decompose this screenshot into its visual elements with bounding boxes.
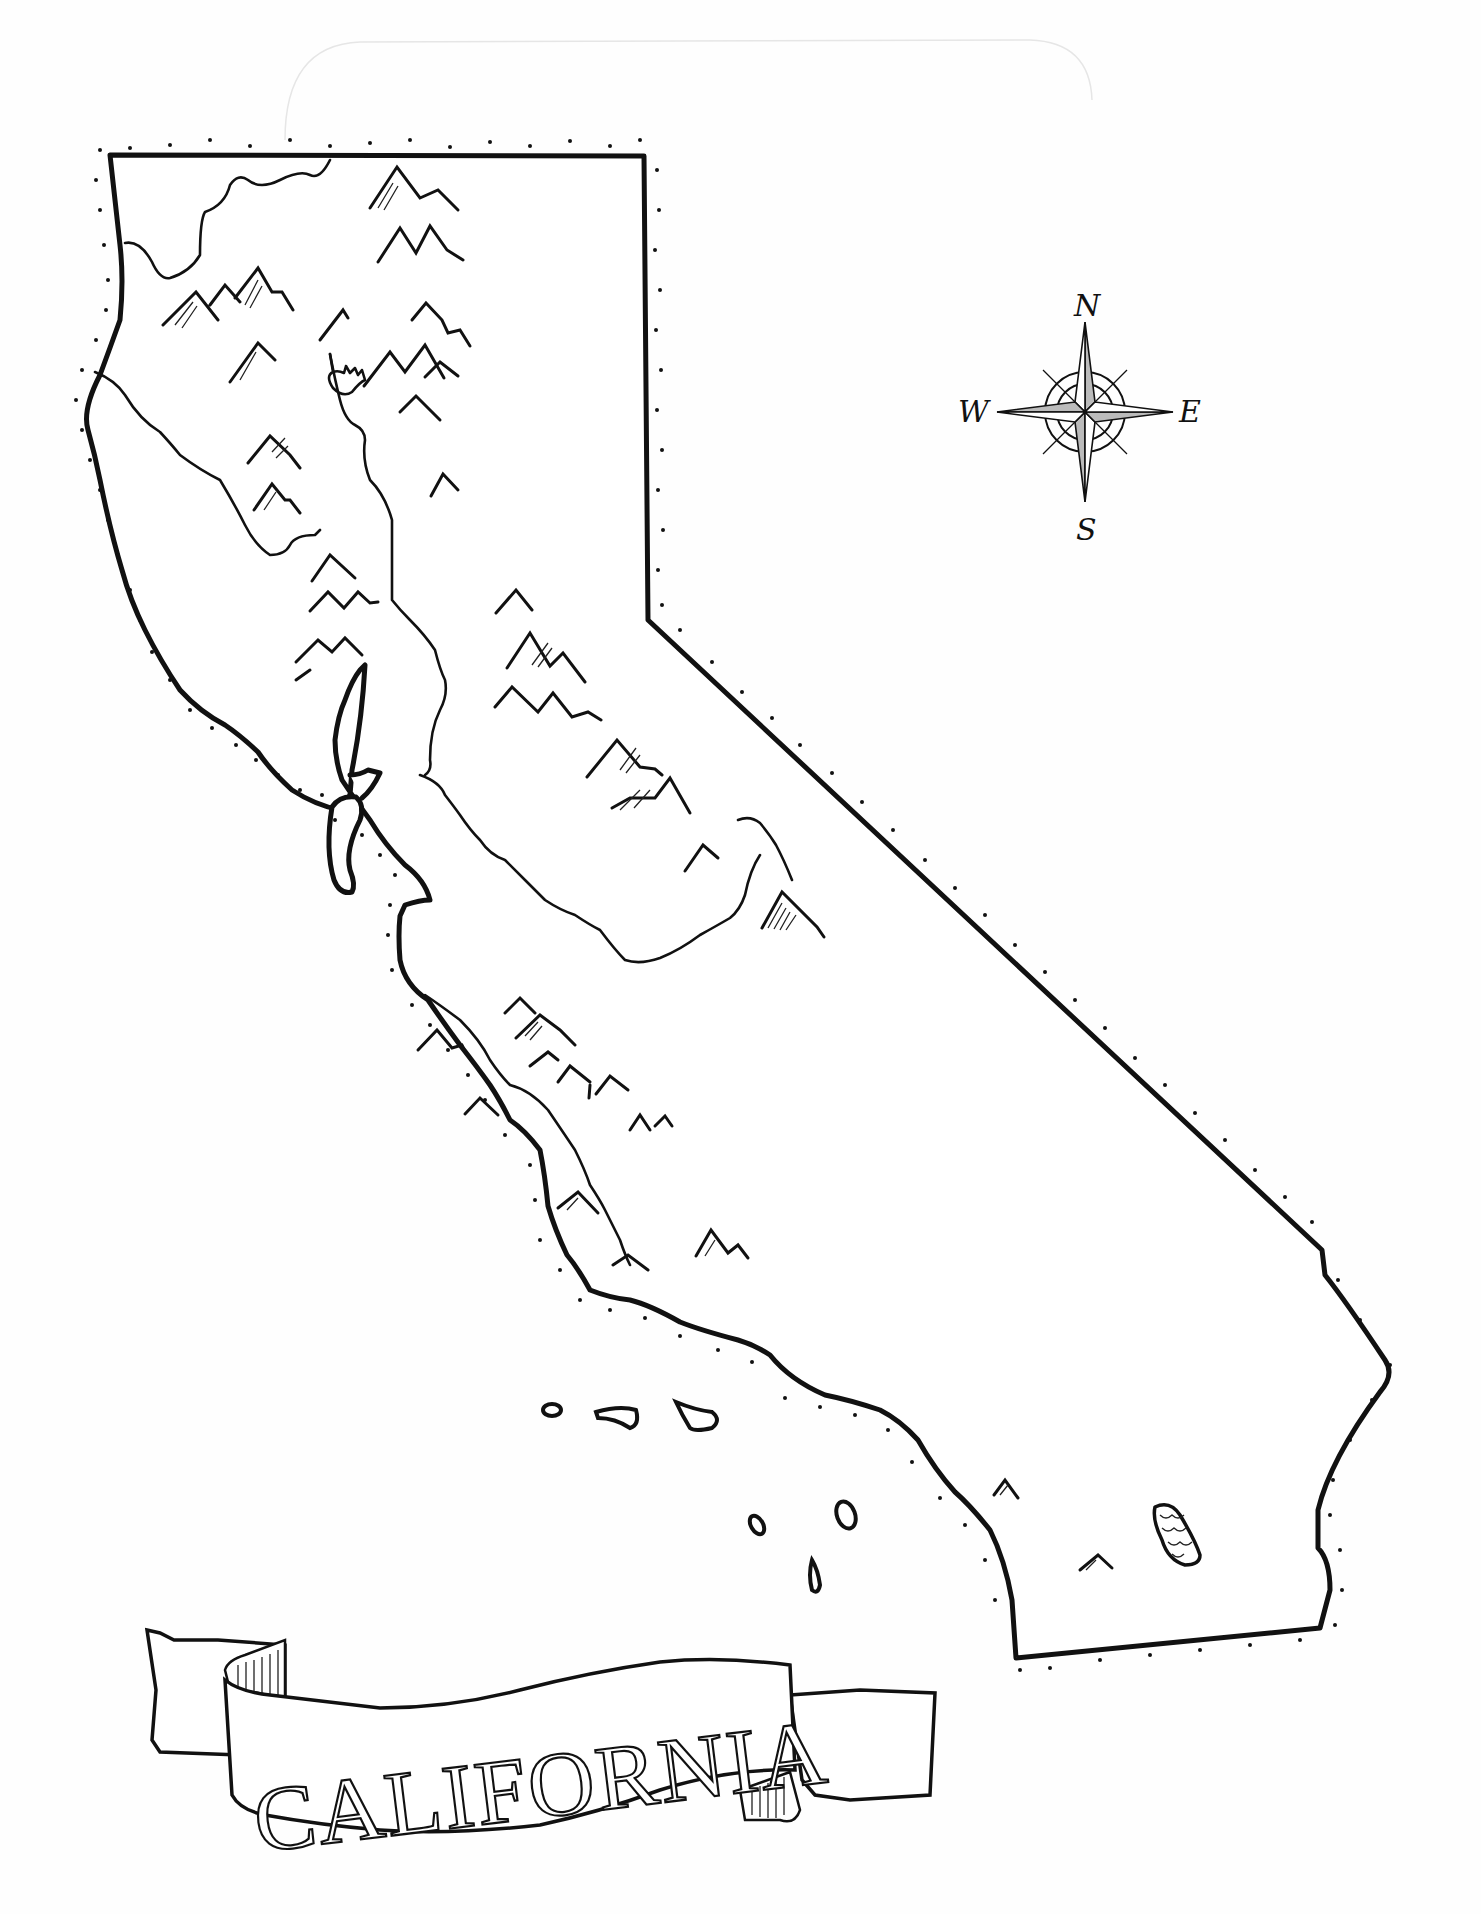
state-outline [87, 155, 1390, 1658]
san-francisco-bay [329, 797, 362, 893]
title-banner: CALIFORNIA [147, 1630, 935, 1872]
compass-east-label: E [1178, 394, 1201, 429]
bleed-through-shape [285, 40, 1092, 140]
map-page: N E S W CALIFORNIA [0, 0, 1481, 1914]
california-map: N E S W CALIFORNIA [0, 0, 1481, 1914]
compass-north-label: N [1073, 288, 1102, 323]
compass-west-label: W [958, 394, 991, 429]
compass-south-label: S [1076, 512, 1097, 547]
channel-islands [543, 1402, 859, 1592]
compass-rose: N E S W [958, 288, 1201, 547]
